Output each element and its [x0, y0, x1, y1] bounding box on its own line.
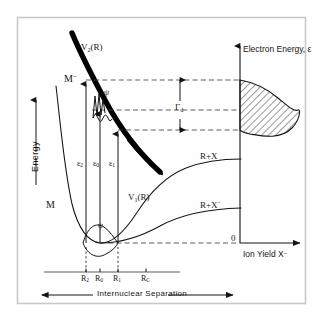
- transition-label-e1-sub: 1: [112, 162, 115, 168]
- tick-label-r0-sub: 0: [100, 277, 103, 283]
- tick-label-r2-sub: 2: [86, 277, 89, 283]
- transition-label-e2-sub: 2: [80, 162, 83, 168]
- transition-label-e1: ε1: [109, 160, 115, 169]
- separation-axis-label: Internuclear Separation: [97, 290, 187, 298]
- electron-energy-axis-text: Electron Energy,: [243, 44, 305, 54]
- state-label-anion-superscript: −: [73, 73, 77, 81]
- curve-label-v1: V1(R): [128, 193, 150, 203]
- asymptote-label-lower-superscript: −: [218, 199, 222, 206]
- curve-label-v2: V2(R): [81, 43, 103, 53]
- ion-yield-axis-superscript: −: [284, 250, 287, 256]
- wavefunction-upper-label: ψ: [104, 89, 109, 97]
- separation-tick-label-r2: R2: [81, 275, 89, 284]
- asymptote-label-lower: R+X−: [200, 200, 221, 210]
- separation-tick-label-r1: R1: [113, 275, 121, 284]
- separation-tick-label-rc: RC: [141, 275, 150, 284]
- wavefunction-lower-label: ψ: [98, 222, 103, 230]
- curve-label-v2-tail: (R): [91, 42, 103, 52]
- separation-tick-label-r0: R0: [95, 275, 103, 284]
- tick-label-rc-sub: C: [146, 277, 150, 283]
- gamma-d-subscript: d: [180, 107, 183, 113]
- transition-label-e2: ε2: [77, 160, 83, 169]
- ion-yield-axis-label: Ion Yield X−: [243, 250, 287, 259]
- transition-label-e0: ε0: [93, 160, 99, 169]
- electron-energy-axis-label: Electron Energy, ε: [243, 45, 311, 54]
- ion-yield-origin-label: 0: [231, 234, 236, 243]
- state-label-anion: M−: [64, 74, 77, 84]
- ion-yield-axis-text: Ion Yield X: [243, 249, 284, 259]
- asymptote-label-upper: R+X: [200, 152, 218, 161]
- curve-label-v1-tail: (R): [138, 192, 150, 202]
- figure-root: Energy V2(R) V1(R) M− M ψ ψ ε2 ε0 ε1 Γd …: [0, 0, 323, 321]
- figure-border: [18, 18, 306, 304]
- asymptote-label-lower-base: R+X: [200, 200, 218, 210]
- state-label-anion-base: M: [64, 73, 73, 84]
- gamma-d-label: Γd: [175, 103, 183, 113]
- state-label-neutral: M: [46, 200, 55, 210]
- electron-energy-axis-symbol: ε: [308, 44, 312, 54]
- transition-label-e0-sub: 0: [96, 162, 99, 168]
- energy-axis-label: Energy: [31, 141, 40, 172]
- tick-label-r1-sub: 1: [118, 277, 121, 283]
